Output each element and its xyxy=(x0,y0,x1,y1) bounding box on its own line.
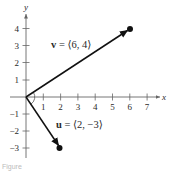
vector-v-endpoint xyxy=(127,26,133,32)
vector-v: v = ⟨6, 4⟩ xyxy=(26,26,133,97)
vector-diagram: 1 2 3 4 5 6 7 x 4 3 2 1 −1 xyxy=(0,0,170,171)
y-tick-2: 2 xyxy=(15,58,20,68)
vector-u-components: = ⟨2, −3⟩ xyxy=(62,119,103,130)
vector-v-label: v = ⟨6, 4⟩ xyxy=(51,39,91,50)
vector-u-endpoint xyxy=(57,145,63,151)
y-tick-3: 3 xyxy=(15,41,20,51)
y-tick-neg3: −3 xyxy=(9,143,19,153)
x-axis-label: x xyxy=(161,92,166,102)
y-axis-label: y xyxy=(23,2,28,12)
vector-u-label: u = ⟨2, −3⟩ xyxy=(56,119,103,130)
y-tick-1: 1 xyxy=(15,75,20,85)
y-tick-4: 4 xyxy=(15,24,20,34)
x-tick-1: 1 xyxy=(41,102,46,112)
vector-v-components: = ⟨6, 4⟩ xyxy=(56,39,91,50)
y-axis: 4 3 2 1 −1 −2 −3 y xyxy=(9,2,29,158)
x-tick-3: 3 xyxy=(76,102,81,112)
vector-u: u = ⟨2, −3⟩ xyxy=(26,97,103,151)
x-tick-2: 2 xyxy=(58,102,63,112)
x-tick-4: 4 xyxy=(93,102,98,112)
x-tick-6: 6 xyxy=(128,102,133,112)
x-tick-7: 7 xyxy=(145,102,150,112)
y-tick-neg1: −1 xyxy=(9,109,19,119)
x-tick-5: 5 xyxy=(110,102,115,112)
y-tick-neg2: −2 xyxy=(9,126,19,136)
figure-caption: Figure xyxy=(2,163,22,170)
